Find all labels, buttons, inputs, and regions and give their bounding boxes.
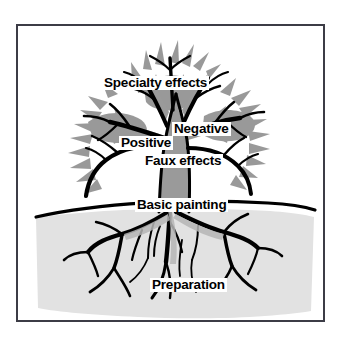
figure-root: Specialty effects Negative Positive Faux… [0,0,340,339]
node-label-positive: Positive [119,136,173,150]
node-label-negative: Negative [172,122,231,136]
node-label-preparation: Preparation [150,278,227,292]
tree-diagram-illustration [18,26,323,320]
node-label-faux-effects: Faux effects [143,154,223,168]
figure-frame: Specialty effects Negative Positive Faux… [16,24,325,322]
node-label-basic-painting: Basic painting [135,198,228,212]
node-label-specialty-effects: Specialty effects [102,76,209,90]
